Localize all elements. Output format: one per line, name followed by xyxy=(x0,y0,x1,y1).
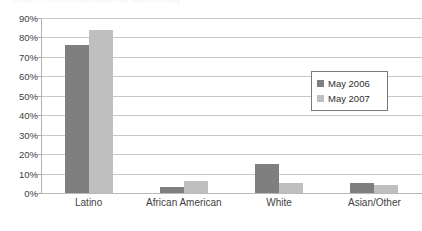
bar[interactable] xyxy=(89,30,113,193)
bar[interactable] xyxy=(160,187,184,193)
bar-group xyxy=(65,18,113,193)
y-axis-tick-label: 40% xyxy=(4,110,38,121)
legend-item-label: May 2007 xyxy=(328,93,370,104)
bar-group xyxy=(160,18,208,193)
x-axis-category-label: Asian/Other xyxy=(348,197,401,208)
x-axis-labels: LatinoAfrican AmericanWhiteAsian/Other xyxy=(41,197,422,217)
legend-swatch-icon xyxy=(317,95,324,102)
chart-legend: May 2006May 2007 xyxy=(311,71,388,111)
y-axis-tick-label: 0% xyxy=(4,188,38,199)
y-axis-tick-label: 20% xyxy=(4,149,38,160)
legend-swatch-icon xyxy=(317,80,324,87)
bar[interactable] xyxy=(374,185,398,193)
y-axis-tick-label: 10% xyxy=(4,168,38,179)
grouped-bar-chart: 90%80%70%60%50%40%30%20%10%0% LatinoAfri… xyxy=(0,0,422,231)
y-axis-tick-label: 80% xyxy=(4,32,38,43)
bar[interactable] xyxy=(255,164,279,193)
y-axis-tick-label: 70% xyxy=(4,51,38,62)
legend-item[interactable]: May 2007 xyxy=(317,91,382,106)
y-axis-tick-label: 30% xyxy=(4,129,38,140)
legend-item-label: May 2006 xyxy=(328,78,370,89)
x-axis-category-label: African American xyxy=(146,197,222,208)
bar-group xyxy=(255,18,303,193)
bar[interactable] xyxy=(350,183,374,193)
y-axis-labels: 90%80%70%60%50%40%30%20%10%0% xyxy=(0,0,38,231)
bar[interactable] xyxy=(279,183,303,193)
category-axis-line xyxy=(41,193,422,194)
bar[interactable] xyxy=(184,181,208,193)
bar[interactable] xyxy=(65,45,89,193)
y-axis-tick-label: 60% xyxy=(4,71,38,82)
y-axis-tick-label: 90% xyxy=(4,13,38,24)
x-axis-category-label: White xyxy=(266,197,292,208)
y-axis-tick-label: 50% xyxy=(4,90,38,101)
x-axis-category-label: Latino xyxy=(75,197,102,208)
legend-item[interactable]: May 2006 xyxy=(317,76,382,91)
